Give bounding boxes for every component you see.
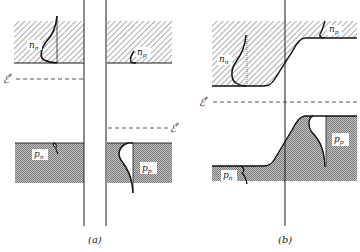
panel-a: nn np ℰ* ℰ* pn pp (a) bbox=[3, 0, 179, 245]
valence-band-n-side bbox=[15, 143, 84, 183]
caption-b: (b) bbox=[278, 234, 292, 245]
pn-junction-band-diagram: nn np ℰ* ℰ* pn pp (a) bbox=[0, 0, 360, 252]
fermi-level-label-left: ℰ* bbox=[3, 72, 12, 85]
conduction-band-n-side bbox=[14, 21, 84, 63]
fermi-level-label-right: ℰ* bbox=[170, 121, 179, 134]
fermi-level-label: ℰ* bbox=[199, 95, 208, 108]
caption-a: (a) bbox=[88, 234, 102, 245]
valence-band-p-side bbox=[107, 143, 172, 183]
panel-b: nn np ℰ* pp pn (b) bbox=[199, 0, 357, 245]
